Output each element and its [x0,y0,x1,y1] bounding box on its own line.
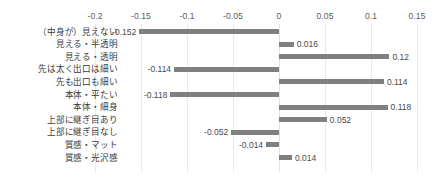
category-label: （中身が）見えない [38,28,118,37]
value-label: -0.014 [239,141,263,150]
value-label: 0.12 [392,53,409,62]
category-label: 本体・細身 [73,103,118,112]
bar [279,155,292,160]
horizontal-bar-chart: -0.2-0.15-0.1-0.0500.050.10.15 （中身が）見えない… [0,0,440,180]
value-label: 0.016 [297,40,318,49]
gridline-0.05 [325,24,326,172]
bar [139,29,279,34]
x-tick--0.1: -0.1 [179,11,194,21]
bar [279,54,389,59]
x-tick-0.1: 0.1 [365,11,377,21]
value-label: -0.152 [112,28,136,37]
bar [279,42,294,47]
x-tick-0.15: 0.15 [409,11,426,21]
y-axis-category-labels: （中身が）見えない見える・半透明見える・透明先は太く出口は細い先も出口も細い本体… [0,0,118,180]
bar [279,117,327,122]
value-label: -0.052 [204,128,228,137]
value-label: -0.118 [144,91,167,100]
gridline--0.15 [141,24,142,172]
value-label: 0.014 [295,154,316,163]
value-label: 0.114 [387,78,408,87]
category-label: 見える・透明 [65,53,118,62]
category-label: 先も出口も細い [56,78,118,87]
value-label: 0.052 [330,116,351,125]
category-label: 上部に継ぎ目あり [47,116,118,125]
gridline--0.05 [233,24,234,172]
category-label: 先は太く出口は細い [38,65,118,74]
value-label: -0.114 [148,65,171,74]
bar [266,142,279,147]
category-label: 質感・マット [65,141,118,150]
category-label: 上部に継ぎ目なし [47,128,118,137]
bar [170,92,279,97]
gridline-0.15 [417,24,418,172]
bar [174,67,279,72]
x-tick-0.05: 0.05 [317,11,334,21]
bar [279,105,388,110]
x-tick--0.15: -0.15 [131,11,151,21]
bar [279,79,384,84]
x-tick-0: 0 [277,11,282,21]
x-tick--0.05: -0.05 [223,11,243,21]
gridline--0.1 [187,24,188,172]
category-label: 本体・平たい [65,91,118,100]
value-label: 0.118 [391,103,412,112]
category-label: 質感・光沢感 [65,154,118,163]
bar [231,130,279,135]
category-label: 見える・半透明 [56,40,118,49]
gridline-0.1 [371,24,372,172]
